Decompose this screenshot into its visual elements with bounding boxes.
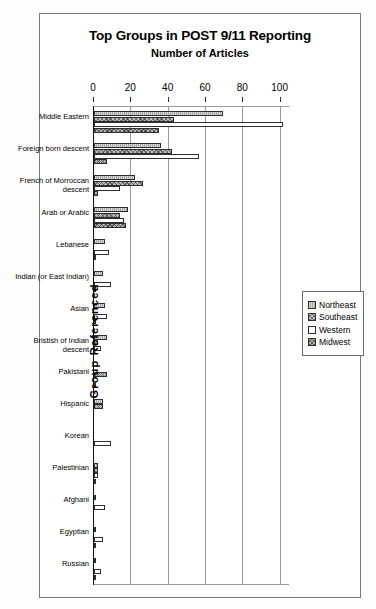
- bar: [94, 250, 109, 255]
- y-tick-label: Palestinian: [7, 463, 89, 472]
- legend-item: Northeast: [308, 300, 357, 310]
- bar-group: [94, 303, 289, 324]
- legend-item: Midwest: [308, 337, 357, 347]
- y-tick-label: Foreign born descent: [7, 144, 89, 153]
- bar-group: [94, 207, 289, 228]
- bar-group: [94, 111, 289, 132]
- plot-top-border: [93, 106, 289, 107]
- x-tick: [242, 97, 243, 102]
- bar: [94, 575, 96, 580]
- bar: [94, 404, 103, 409]
- bar: [94, 223, 126, 228]
- y-tick-label: Middle Eastern: [7, 112, 89, 121]
- bar: [94, 181, 143, 186]
- y-tick-label: Russian: [7, 559, 89, 568]
- bar: [94, 558, 96, 563]
- plot-bottom-border: [93, 584, 289, 585]
- y-tick-label: Indian (or East Indian): [7, 272, 89, 281]
- plot-area: 020406080100 Middle EasternForeign born …: [93, 106, 289, 585]
- x-tick: [93, 97, 94, 102]
- bar: [94, 473, 98, 478]
- legend-swatch-icon: [308, 313, 316, 321]
- x-tick: [205, 97, 206, 102]
- chart-page: Top Groups in POST 9/11 Reporting Number…: [0, 0, 376, 609]
- bar: [94, 111, 223, 116]
- chart-frame: Top Groups in POST 9/11 Reporting Number…: [39, 13, 361, 598]
- bar: [94, 495, 96, 500]
- bar-group: [94, 495, 289, 516]
- x-tick-label: 20: [125, 82, 136, 93]
- bar-group: [94, 335, 289, 356]
- x-tick-label: 40: [162, 82, 173, 93]
- x-tick-label: 100: [271, 82, 288, 93]
- bar: [94, 218, 124, 223]
- bar: [94, 537, 103, 542]
- y-tick-label: Egyptian: [7, 527, 89, 536]
- chart-title: Top Groups in POST 9/11 Reporting: [40, 28, 360, 43]
- bar: [94, 117, 174, 122]
- bar: [94, 191, 98, 196]
- legend-label: Southeast: [319, 312, 357, 322]
- bar: [94, 468, 98, 473]
- bar: [94, 479, 96, 484]
- bar-group: [94, 527, 289, 548]
- bar-group: [94, 367, 289, 388]
- bar: [94, 143, 161, 148]
- x-tick: [280, 97, 281, 102]
- bar: [94, 441, 111, 446]
- y-axis-title: Group Referenced: [88, 283, 100, 398]
- bar: [94, 527, 96, 532]
- x-tick-label: 0: [90, 82, 96, 93]
- chart-subtitle: Number of Articles: [40, 47, 360, 59]
- bar-group: [94, 175, 289, 196]
- bar: [94, 239, 105, 244]
- bar: [94, 255, 96, 260]
- bar: [94, 505, 105, 510]
- bar: [94, 463, 98, 468]
- bar: [94, 399, 103, 404]
- bar-group: [94, 271, 289, 292]
- legend-item: Southeast: [308, 312, 357, 322]
- bar: [94, 154, 199, 159]
- bar: [94, 149, 172, 154]
- legend-item: Western: [308, 325, 357, 335]
- bar: [94, 186, 120, 191]
- legend-swatch-icon: [308, 338, 316, 346]
- bar: [94, 213, 120, 218]
- y-tick-label: Afghani: [7, 495, 89, 504]
- y-tick-label: Asian: [7, 304, 89, 313]
- bar: [94, 122, 283, 127]
- y-tick-label: Bristish of Indian descent: [7, 336, 89, 354]
- legend-swatch-icon: [308, 326, 316, 334]
- bar: [94, 569, 101, 574]
- legend-label: Western: [319, 325, 351, 335]
- y-tick-label: Lebanese: [7, 240, 89, 249]
- bar-group: [94, 558, 289, 579]
- x-tick-label: 60: [199, 82, 210, 93]
- y-tick-label: Korean: [7, 431, 89, 440]
- bar: [94, 128, 159, 133]
- bar: [94, 271, 103, 276]
- y-tick-label: Hispanic: [7, 399, 89, 408]
- bar-group: [94, 239, 289, 260]
- bar: [94, 159, 107, 164]
- bar-group: [94, 143, 289, 164]
- y-tick-label: French of Morroccan descent: [7, 176, 89, 194]
- x-tick: [130, 97, 131, 102]
- y-tick-label: Arab or Arabic: [7, 208, 89, 217]
- y-axis-tick-labels: Middle EasternForeign born descentFrench…: [7, 106, 89, 585]
- legend-label: Midwest: [319, 337, 350, 347]
- x-tick: [168, 97, 169, 102]
- x-tick-label: 80: [237, 82, 248, 93]
- bar: [94, 543, 96, 548]
- bar-group: [94, 399, 289, 420]
- bar-group: [94, 431, 289, 452]
- chart-legend: NortheastSoutheastWesternMidwest: [302, 291, 364, 356]
- bar-group: [94, 463, 289, 484]
- bar: [94, 207, 128, 212]
- legend-label: Northeast: [319, 300, 356, 310]
- legend-swatch-icon: [308, 301, 316, 309]
- y-tick-label: Pakistani: [7, 367, 89, 376]
- bar: [94, 175, 135, 180]
